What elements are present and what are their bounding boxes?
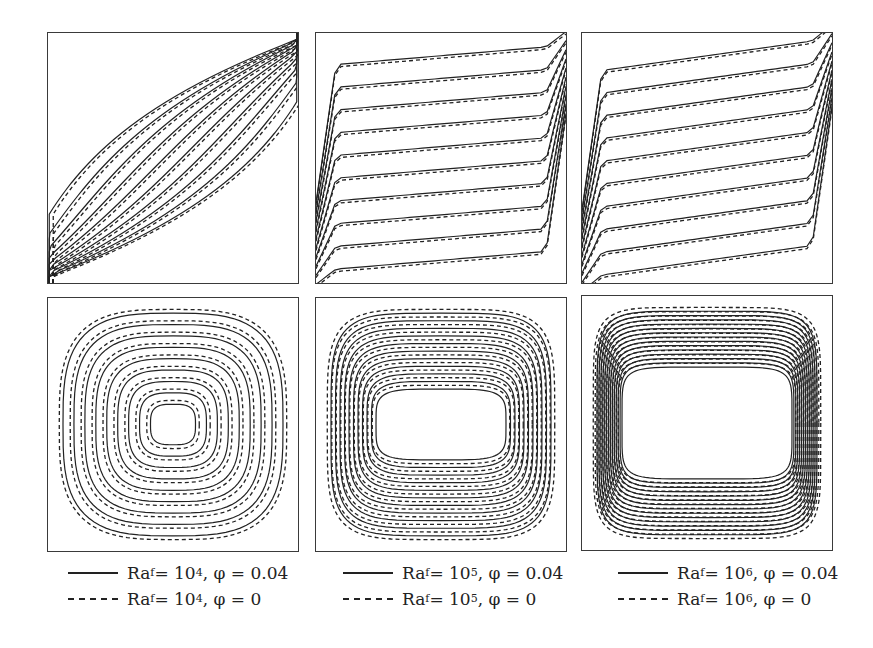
dashed-line-swatch: [618, 598, 668, 600]
isotherm-contours-ra1e5: [316, 33, 566, 283]
legend-entry-dashed: Raf = 105, φ = 0: [343, 586, 563, 612]
isotherm-panel-ra1e4: [47, 32, 299, 284]
legend-entry-solid: Raf = 106, φ = 0.04: [618, 560, 838, 586]
legend-ra1e6: Raf = 106, φ = 0.04 Raf = 106, φ = 0: [618, 560, 838, 612]
isotherm-panel-ra1e5: [315, 32, 567, 284]
solid-line-swatch: [343, 572, 393, 574]
dashed-line-swatch: [343, 598, 393, 600]
streamline-panel-ra1e6: [581, 295, 833, 551]
dashed-line-swatch: [68, 598, 118, 600]
isotherm-panel-ra1e6: [581, 32, 833, 284]
legend-entry-solid: Raf = 105, φ = 0.04: [343, 560, 563, 586]
legend-ra1e5: Raf = 105, φ = 0.04 Raf = 105, φ = 0: [343, 560, 563, 612]
isotherm-contours-ra1e4: [48, 33, 298, 283]
streamline-panel-ra1e4: [47, 297, 299, 552]
streamline-panel-ra1e5: [315, 297, 567, 552]
streamline-contours-ra1e5: [316, 298, 566, 551]
legend-ra1e4: Raf = 104, φ = 0.04 Raf = 104, φ = 0: [68, 560, 288, 612]
legend-entry-solid: Raf = 104, φ = 0.04: [68, 560, 288, 586]
isotherm-contours-ra1e6: [582, 33, 832, 283]
legend-entry-dashed: Raf = 104, φ = 0: [68, 586, 288, 612]
solid-line-swatch: [618, 572, 668, 574]
solid-line-swatch: [68, 572, 118, 574]
legend-entry-dashed: Raf = 106, φ = 0: [618, 586, 838, 612]
streamline-contours-ra1e4: [48, 298, 298, 551]
streamline-contours-ra1e6: [582, 296, 832, 550]
